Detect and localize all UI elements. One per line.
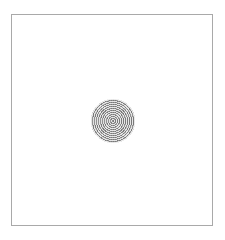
figure-canvas (0, 0, 225, 240)
concentric-ring-disc (91, 99, 135, 143)
